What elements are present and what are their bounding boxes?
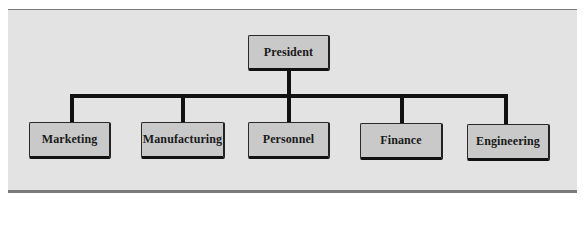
node-label: President bbox=[264, 45, 313, 60]
connector-marketing bbox=[70, 94, 74, 124]
node-personnel: Personnel bbox=[248, 122, 330, 159]
connector-engineering bbox=[504, 94, 508, 126]
node-label: Engineering bbox=[476, 134, 540, 149]
node-label: Finance bbox=[380, 133, 421, 148]
node-label: Manufacturing bbox=[143, 132, 222, 147]
connector-finance bbox=[400, 94, 404, 124]
root-connector bbox=[287, 69, 291, 97]
node-label: Marketing bbox=[42, 132, 98, 147]
node-manufacturing: Manufacturing bbox=[141, 122, 225, 159]
node-label: Personnel bbox=[263, 132, 315, 147]
connector-manufacturing bbox=[181, 94, 185, 124]
connector-personnel bbox=[287, 94, 291, 124]
node-finance: Finance bbox=[360, 123, 443, 160]
node-marketing: Marketing bbox=[29, 122, 111, 159]
bottom-rule bbox=[8, 190, 577, 193]
node-president: President bbox=[248, 35, 330, 71]
node-engineering: Engineering bbox=[467, 124, 550, 161]
